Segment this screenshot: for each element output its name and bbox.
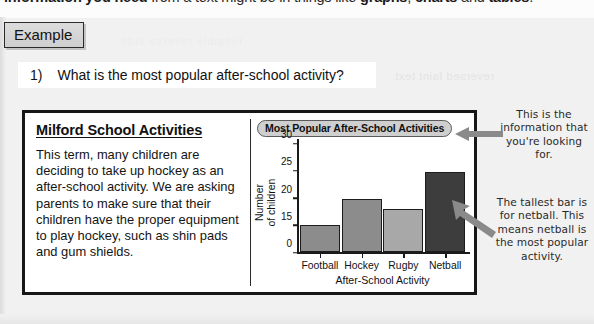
scanned-page: information you need from a text might b… (0, 0, 594, 324)
bar-cell (299, 145, 341, 252)
header-regular-mid: from a text might be in things like (147, 0, 360, 5)
page-bleed-through-upper: illegible reverse side (120, 35, 242, 47)
header-sep-2: and (457, 0, 488, 5)
resource-box: Milford School Activities This term, man… (22, 110, 477, 295)
cropped-header-sentence: information you need from a text might b… (0, 0, 594, 17)
x-axis-title: After-School Activity (299, 274, 466, 286)
plot-area: 015202530 (297, 145, 466, 254)
arrow-to-netball-bar-icon (452, 196, 496, 238)
header-bold-graphs: graphs (360, 0, 407, 5)
page-edge-shadow-bottom (0, 314, 594, 324)
y-tick-mark (293, 225, 297, 227)
y-axis-label: Number of children (254, 179, 277, 227)
x-tick-mark (341, 254, 383, 258)
x-tick-mark (299, 254, 341, 258)
y-tick-mark (293, 170, 297, 172)
bar-hockey (342, 199, 382, 253)
x-tick-label: Netball (424, 260, 466, 271)
y-tick-mark (293, 143, 297, 145)
resource-text-column: Milford School Activities This term, man… (25, 113, 250, 292)
page-bleed-through-right: reversed faint text (395, 70, 494, 82)
x-tick-mark (383, 254, 425, 258)
question-number: 1) (30, 67, 42, 83)
y-tick-mark (293, 252, 297, 254)
x-axis-tick-labels: FootballHockeyRugbyNetball (299, 260, 466, 271)
x-tick-label: Hockey (341, 260, 383, 271)
example-tab: Example (4, 22, 84, 48)
y-tick-mark (293, 197, 297, 199)
header-bold-lead: information you need (4, 0, 147, 5)
header-sep-1: , (407, 0, 415, 5)
bar-cell (383, 145, 425, 252)
annotation-information-note: This is the information that you're look… (496, 108, 592, 162)
page-edge-shadow-left (0, 0, 6, 324)
y-tick-label: 25 (281, 157, 292, 167)
y-axis-label-wrap: Number of children (253, 113, 279, 292)
header-sep-3: . (529, 0, 533, 5)
y-tick-label: 0 (286, 239, 292, 249)
bar-cell (341, 145, 383, 252)
x-tick-mark (424, 254, 466, 258)
header-bold-charts: charts (415, 0, 457, 5)
bar-football (300, 225, 340, 252)
y-tick-label: 30 (281, 130, 292, 140)
annotation-tallest-bar-note: The tallest bar is for netball. This mea… (494, 196, 590, 263)
x-tick-marks (299, 254, 466, 258)
x-tick-label: Football (299, 260, 341, 271)
question-band: 1) What is the most popular after-school… (18, 62, 376, 88)
x-tick-label: Rugby (383, 260, 425, 271)
bar-group (299, 145, 466, 252)
header-bold-tables: tables (488, 0, 529, 5)
resource-title: Milford School Activities (36, 122, 242, 138)
y-tick-label: 15 (281, 212, 292, 222)
y-tick-label: 20 (281, 185, 292, 195)
resource-body-text: This term, many children are deciding to… (36, 147, 242, 260)
question-text: What is the most popular after-school ac… (57, 67, 343, 83)
bar-chart: Most Popular After-School Activities Num… (251, 113, 474, 292)
bar-rugby (383, 209, 423, 252)
